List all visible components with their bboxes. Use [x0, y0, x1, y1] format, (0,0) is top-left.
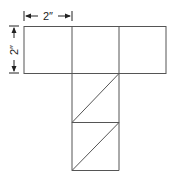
- diagonal-1: [72, 74, 119, 123]
- height-dimension: 2″: [8, 26, 20, 73]
- diagonal-2: [72, 123, 119, 171]
- column: [72, 74, 119, 171]
- t-net-diagram: 2″ 2″: [0, 0, 173, 177]
- height-label: 2″: [8, 45, 20, 55]
- arrow-up-icon: [12, 27, 17, 33]
- width-dimension: 2″: [24, 10, 72, 22]
- arrow-left-icon: [25, 14, 31, 19]
- width-label: 2″: [43, 10, 53, 22]
- arrow-down-icon: [12, 66, 17, 72]
- top-row-outline: [24, 27, 166, 74]
- top-row: [24, 27, 166, 74]
- arrow-right-icon: [65, 14, 71, 19]
